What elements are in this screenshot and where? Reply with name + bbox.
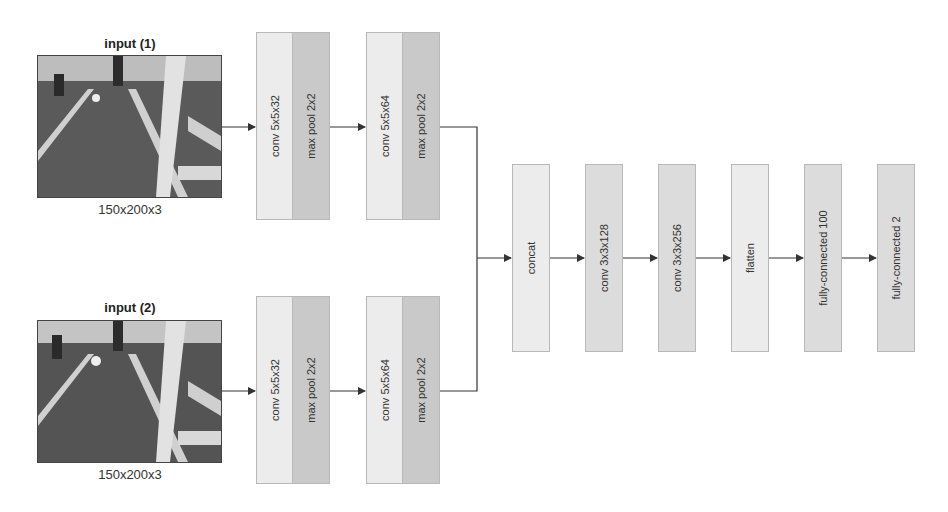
input-1-title: input (1) [38,36,222,51]
layer-label: conv 3x3x256 [671,224,683,292]
layer-label: conv 3x3x128 [598,224,610,292]
input-1-image [37,55,222,198]
conv-5x5x64-bottom: conv 5x5x64 [366,296,403,484]
layer-label: conv 5x5x32 [269,95,281,157]
concat-layer: concat [512,164,550,352]
layer-label: conv 5x5x64 [379,359,391,421]
input-2-title: input (2) [38,300,222,315]
layer-label: concat [525,242,537,274]
flatten-layer: flatten [731,164,769,352]
input-1-dims: 150x200x3 [38,202,222,217]
layer-label: flatten [744,243,756,273]
input-2-image [37,320,222,463]
layer-label: max pool 2x2 [415,357,427,422]
layer-label: conv 5x5x64 [379,95,391,157]
layer-label: conv 5x5x32 [269,359,281,421]
max-pool-top-1: max pool 2x2 [292,32,330,220]
fully-connected-100-layer: fully-connected 100 [804,164,842,352]
max-pool-top-2: max pool 2x2 [402,32,440,220]
conv-3x3x128-layer: conv 3x3x128 [585,164,623,352]
layer-label: fully-connected 2 [890,216,902,299]
input-2-dims: 150x200x3 [38,467,222,482]
layer-label: max pool 2x2 [415,93,427,158]
soccer-field-image-icon [38,56,221,197]
max-pool-bottom-1: max pool 2x2 [292,296,330,484]
conv-5x5x32-top: conv 5x5x32 [256,32,293,220]
conv-3x3x256-layer: conv 3x3x256 [658,164,696,352]
layer-label: max pool 2x2 [305,357,317,422]
conv-5x5x32-bottom: conv 5x5x32 [256,296,293,484]
layer-label: max pool 2x2 [305,93,317,158]
fully-connected-2-layer: fully-connected 2 [877,164,915,352]
layer-label: fully-connected 100 [817,210,829,305]
max-pool-bottom-2: max pool 2x2 [402,296,440,484]
soccer-field-image-icon [38,321,221,462]
conv-5x5x64-top: conv 5x5x64 [366,32,403,220]
